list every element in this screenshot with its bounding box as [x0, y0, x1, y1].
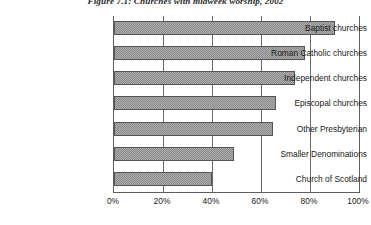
bar: [114, 172, 212, 186]
x-tick-label: 20%: [142, 196, 182, 206]
category-label: Smaller Denominations: [261, 149, 371, 159]
bar: [114, 96, 276, 110]
x-tick-label: 0%: [93, 196, 133, 206]
x-tick-label: 100%: [338, 196, 371, 206]
x-tick-label: 80%: [289, 196, 329, 206]
category-label: Episcopal churches: [261, 98, 371, 108]
chart-title: Figure 7.1: Churches with midweek worshi…: [0, 0, 371, 6]
x-tick-label: 40%: [191, 196, 231, 206]
figure-container: Figure 7.1: Churches with midweek worshi…: [0, 0, 371, 225]
category-label: Baptist churches: [261, 23, 371, 33]
category-label: Other Presbyterian: [261, 124, 371, 134]
x-tick-label: 60%: [240, 196, 280, 206]
bar: [114, 147, 234, 161]
category-label: Roman Catholic churches: [261, 48, 371, 58]
category-label: Church of Scotland: [261, 174, 371, 184]
category-label: Independent churches: [261, 73, 371, 83]
bar: [114, 122, 273, 136]
